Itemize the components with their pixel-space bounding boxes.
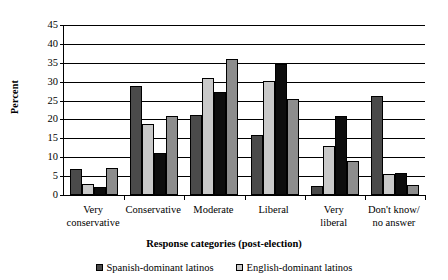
x-axis-category-label-line: liberal: [320, 216, 347, 229]
x-axis-category-label: Liberal: [258, 203, 288, 216]
y-axis-tick-label: 30: [48, 76, 59, 87]
bar: [311, 186, 323, 195]
y-axis-tick-label: 35: [48, 58, 59, 69]
legend-swatch-icon: [96, 264, 103, 271]
x-axis-tick: [184, 195, 185, 200]
bar: [214, 92, 226, 195]
bar: [70, 169, 82, 195]
y-axis-tick-label: 0: [53, 190, 58, 201]
x-axis-category-label: Moderate: [193, 203, 233, 216]
x-axis-category-label: Veryliberal: [320, 203, 347, 229]
x-axis-category-label-line: Conservative: [126, 203, 181, 216]
y-axis-title: Percent: [9, 80, 20, 114]
x-axis-category-label-line: Don't know/: [368, 203, 420, 216]
y-axis-tick: [60, 195, 64, 196]
bar: [226, 59, 238, 195]
bar: [106, 168, 118, 195]
bar: [287, 99, 299, 195]
x-axis-category-label-line: no answer: [368, 216, 420, 229]
bar: [82, 184, 94, 195]
x-axis-tick: [245, 195, 246, 200]
bar: [251, 135, 263, 195]
bar: [407, 185, 419, 195]
y-axis-tick-label: 20: [48, 114, 59, 125]
bar: [154, 153, 166, 195]
bars-layer: [64, 25, 425, 195]
bar: [130, 86, 142, 195]
bar: [166, 116, 178, 195]
bar: [335, 116, 347, 195]
x-axis-tick: [305, 195, 306, 200]
legend-item: Spanish-dominant latinos: [96, 262, 214, 273]
x-axis-title: Response categories (post-election): [0, 238, 448, 249]
bar: [202, 78, 214, 195]
x-axis-category-label-line: Liberal: [258, 203, 288, 216]
bar: [142, 124, 154, 195]
legend-swatch-icon: [236, 264, 243, 271]
bar: [395, 173, 407, 195]
y-axis-tick-label: 25: [48, 95, 59, 106]
legend-label: Spanish-dominant latinos: [107, 262, 214, 273]
plot-area: 051015202530354045: [63, 25, 425, 196]
bar: [383, 174, 395, 195]
y-axis-tick-label: 45: [48, 20, 59, 31]
y-axis-tick-label: 15: [48, 133, 59, 144]
bar: [94, 187, 106, 195]
x-axis-category-label: Conservative: [126, 203, 181, 216]
x-axis-tick: [365, 195, 366, 200]
bar: [190, 115, 202, 195]
bar: [263, 81, 275, 195]
chart-legend: Spanish-dominant latinosEnglish-dominant…: [0, 262, 448, 273]
bar: [323, 146, 335, 195]
x-axis-tick: [124, 195, 125, 200]
bar: [347, 161, 359, 195]
x-axis-tick: [425, 195, 426, 200]
x-axis-category-label-line: Moderate: [193, 203, 233, 216]
x-axis-category-label: Don't know/no answer: [368, 203, 420, 229]
bar: [371, 96, 383, 195]
x-axis-category-label-line: Very: [67, 203, 120, 216]
legend-item: English-dominant latinos: [236, 262, 353, 273]
y-axis-tick-label: 10: [48, 152, 59, 163]
x-axis-category-label-line: conservative: [67, 216, 120, 229]
bar-chart-figure: Percent 051015202530354045 Veryconservat…: [0, 0, 448, 280]
x-axis-category-label: Veryconservative: [67, 203, 120, 229]
y-axis-tick-label: 40: [48, 39, 59, 50]
bar: [275, 64, 287, 195]
legend-label: English-dominant latinos: [247, 262, 353, 273]
x-axis-category-label-line: Very: [320, 203, 347, 216]
y-axis-tick-label: 5: [53, 171, 58, 182]
x-axis-category-labels: VeryconservativeConservativeModerateLibe…: [63, 203, 425, 237]
